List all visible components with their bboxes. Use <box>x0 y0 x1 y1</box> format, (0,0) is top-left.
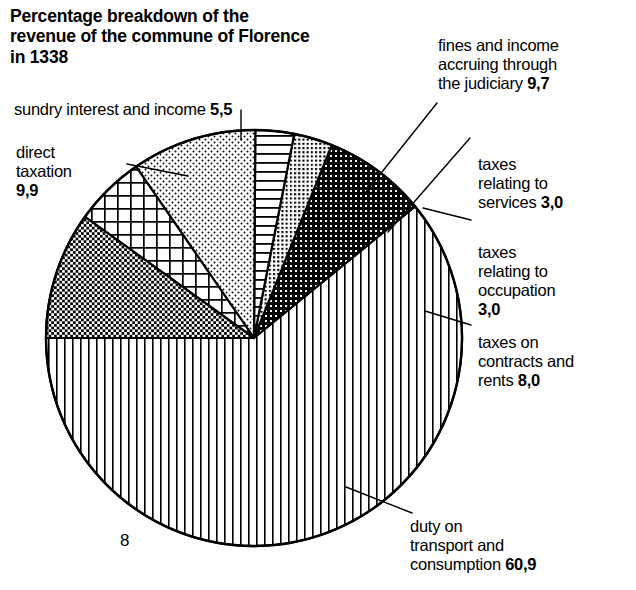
callout-taxes-services: taxes relating to services 3,0 <box>478 155 628 212</box>
callout-fines-value: 9,7 <box>527 74 549 92</box>
leader-line-occupation <box>423 208 471 220</box>
leader-line-fines <box>366 103 437 192</box>
callout-taxes-occupation: taxes relating to occupation 3,0 <box>478 243 628 320</box>
callout-occupation-text: taxes relating to occupation <box>478 243 555 299</box>
callout-taxes-contracts: taxes on contracts and rents 8,0 <box>478 333 628 390</box>
page-number: 8 <box>120 531 129 551</box>
chart-canvas: Percentage breakdown of the revenue of t… <box>0 0 636 590</box>
callout-direct-value: 9,9 <box>16 181 38 199</box>
callout-fines-judiciary: fines and income accruing through the ju… <box>438 36 628 93</box>
leader-line-services <box>388 138 470 232</box>
callout-direct-taxation: direct taxation 9,9 <box>16 143 156 200</box>
callout-duty-transport: duty on transport and consumption 60,9 <box>410 517 630 574</box>
callout-direct-text: direct taxation <box>16 143 72 180</box>
callout-sundry-interest: sundry interest and income 5,5 <box>14 100 314 119</box>
callout-services-value: 3,0 <box>541 193 563 211</box>
callout-occupation-value: 3,0 <box>478 300 500 318</box>
callout-services-text: taxes relating to services <box>478 155 548 211</box>
callout-sundry-value: 5,5 <box>210 100 232 118</box>
callout-contracts-value: 8,0 <box>518 371 540 389</box>
callout-duty-value: 60,9 <box>505 555 536 573</box>
callout-duty-text: duty on transport and consumption <box>410 517 505 573</box>
callout-sundry-text: sundry interest and income <box>14 100 210 118</box>
